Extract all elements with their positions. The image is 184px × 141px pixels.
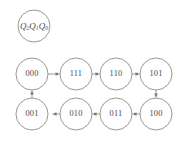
state-node-011[interactable]: 011 <box>100 98 132 130</box>
state-register-legend: Q2Q1Q0 <box>18 10 50 42</box>
edge-101-to-100-arrowhead <box>154 94 158 99</box>
state-node-000[interactable]: 000 <box>16 58 48 90</box>
state-node-100[interactable]: 100 <box>140 98 172 130</box>
edge-110-to-101-arrowhead <box>136 72 141 76</box>
state-node-010[interactable]: 010 <box>60 98 92 130</box>
edge-110-to-101 <box>132 72 140 76</box>
edge-111-to-110 <box>92 72 100 76</box>
state-node-001-label: 001 <box>25 109 38 118</box>
state-node-011-label: 011 <box>110 109 123 118</box>
edge-101-to-100 <box>154 90 158 98</box>
state-node-111[interactable]: 111 <box>60 58 92 90</box>
edge-000-to-111 <box>48 72 60 76</box>
legend-subscript-0: 0 <box>45 25 48 31</box>
state-node-111-label: 111 <box>70 69 83 78</box>
edge-010-to-001-arrowhead <box>52 112 57 116</box>
state-register-legend-label: Q2Q1Q0 <box>20 21 48 31</box>
edge-100-to-011-arrowhead <box>132 112 137 116</box>
state-node-000-label: 000 <box>25 69 38 78</box>
state-node-110-label: 110 <box>110 69 123 78</box>
edge-001-to-000-arrowhead <box>30 90 34 95</box>
state-diagram-canvas: Q2Q1Q0 <box>0 0 184 141</box>
state-node-101-label: 101 <box>149 69 162 78</box>
edge-111-to-110-arrowhead <box>96 72 101 76</box>
state-transition-diagram: Q2Q1Q0 <box>0 0 184 141</box>
edge-000-to-111-arrowhead <box>56 72 61 76</box>
state-node-010-label: 010 <box>69 109 82 118</box>
state-node-001[interactable]: 001 <box>16 98 48 130</box>
state-node-101[interactable]: 101 <box>140 58 172 90</box>
edge-011-to-010 <box>92 112 100 116</box>
state-node-110[interactable]: 110 <box>100 58 132 90</box>
edge-100-to-011 <box>132 112 140 116</box>
edge-010-to-001 <box>52 112 60 116</box>
edge-011-to-010-arrowhead <box>92 112 97 116</box>
state-node-100-label: 100 <box>149 109 162 118</box>
edge-001-to-000 <box>30 90 34 98</box>
